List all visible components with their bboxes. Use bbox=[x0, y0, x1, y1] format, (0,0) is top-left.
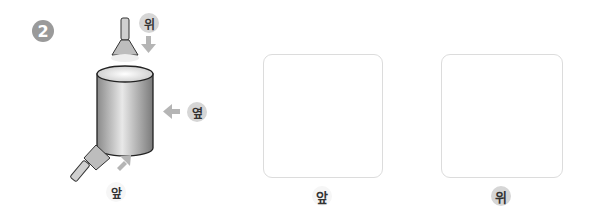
answer-box-top[interactable] bbox=[441, 54, 563, 178]
label-front-chip: 앞 bbox=[106, 182, 126, 202]
arrow-up-right-icon bbox=[117, 155, 131, 171]
label-top-chip: 위 bbox=[139, 13, 159, 33]
answer-box-top-label: 위 bbox=[491, 186, 511, 206]
label-side-chip: 옆 bbox=[187, 102, 207, 122]
arrow-down-icon bbox=[141, 36, 156, 53]
flashlight-top-icon bbox=[111, 18, 139, 62]
answer-box-front[interactable] bbox=[263, 54, 383, 178]
cylinder-shape bbox=[97, 66, 153, 156]
arrow-left-icon bbox=[163, 104, 180, 119]
answer-box-front-label: 앞 bbox=[312, 186, 332, 206]
